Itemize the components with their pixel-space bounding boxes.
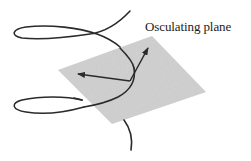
helix-lower-loop-left bbox=[14, 97, 84, 113]
osculating-plane-diagram: Osculating plane bbox=[0, 0, 251, 161]
osculating-plane bbox=[58, 36, 206, 124]
helix-bottom-tail bbox=[124, 120, 132, 150]
plane-label: Osculating plane bbox=[145, 19, 231, 35]
helix-lower-entry bbox=[74, 98, 82, 100]
